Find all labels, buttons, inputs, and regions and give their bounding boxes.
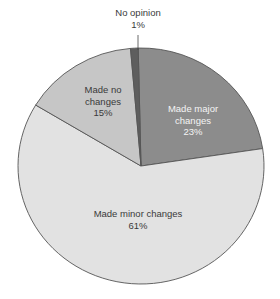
label-none-line1: Made no [85, 84, 122, 96]
label-no-opinion-pct: 1% [115, 19, 160, 31]
label-no-opinion-name: No opinion [115, 7, 160, 19]
label-minor-line1: Made minor changes [94, 208, 183, 220]
label-major-line2: changes [168, 115, 218, 127]
label-minor-pct: 61% [94, 220, 183, 232]
label-made-minor-changes: Made minor changes 61% [94, 208, 183, 231]
label-made-major-changes: Made major changes 23% [168, 103, 218, 138]
label-major-line1: Made major [168, 103, 218, 115]
label-no-opinion: No opinion 1% [115, 7, 160, 30]
label-major-pct: 23% [168, 126, 218, 138]
pie-slices [18, 48, 264, 284]
label-none-line2: changes [85, 96, 122, 108]
label-made-no-changes: Made no changes 15% [85, 84, 122, 119]
pie-chart [0, 0, 280, 299]
label-none-pct: 15% [85, 107, 122, 119]
